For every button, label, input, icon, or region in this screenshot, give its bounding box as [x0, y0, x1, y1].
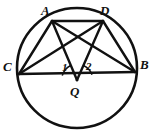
- point-label-d: D: [100, 4, 109, 17]
- circle-geometry-svg: [0, 0, 153, 133]
- vertex-dot-q: [76, 79, 79, 82]
- point-label-q: Q: [70, 85, 79, 98]
- point-label-b: B: [140, 58, 149, 71]
- main-circle: [17, 8, 137, 128]
- geometry-figure-canvas: A D C B Q 1 2: [0, 0, 153, 133]
- point-label-a: A: [41, 4, 50, 17]
- segment-d-b: [103, 21, 135, 72]
- segment-c-a: [19, 21, 52, 74]
- segment-c-b: [19, 72, 135, 74]
- angle-label-1: 1: [62, 62, 68, 73]
- angle-label-2: 2: [86, 61, 92, 72]
- point-label-c: C: [3, 60, 12, 73]
